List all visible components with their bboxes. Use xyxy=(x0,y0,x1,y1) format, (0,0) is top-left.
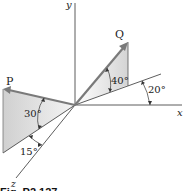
q-label: Q xyxy=(115,28,124,41)
x-axis-label: x xyxy=(177,107,183,118)
angle-label-20: 20° xyxy=(148,84,166,95)
p-label: P xyxy=(6,75,14,88)
figure-caption: Fig. P2.127 xyxy=(0,186,57,191)
arc-arrow xyxy=(148,101,152,105)
arc-arrow xyxy=(141,81,145,85)
y-axis-label: y xyxy=(65,0,72,10)
angle-label-40: 40° xyxy=(111,75,129,86)
force-vector-diagram: y x z Q P 40° 20° 30° 15° Fig. P2.127 xyxy=(0,0,184,191)
angle-label-30: 30° xyxy=(24,108,42,119)
angle-label-15: 15° xyxy=(20,146,38,157)
